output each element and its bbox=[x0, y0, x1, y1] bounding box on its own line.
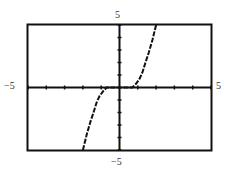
x-min-label: −5 bbox=[4, 81, 15, 91]
function-graph bbox=[0, 0, 231, 175]
y-min-label: −5 bbox=[111, 157, 122, 167]
x-max-label: 5 bbox=[216, 81, 221, 91]
y-max-label: 5 bbox=[115, 10, 120, 20]
